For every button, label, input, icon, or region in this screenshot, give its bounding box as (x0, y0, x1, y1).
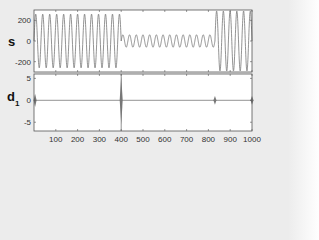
x-tick-label: 1000 (243, 135, 261, 144)
top-y-tick-label: 200 (18, 16, 32, 25)
x-tick-label: 400 (115, 135, 129, 144)
x-tick-label: 900 (224, 135, 238, 144)
x-tick-label: 200 (71, 135, 85, 144)
x-tick-label: 600 (158, 135, 172, 144)
x-tick-label: 500 (136, 135, 150, 144)
bottom-y-tick-label: 5 (27, 74, 32, 83)
wavelet-decomposition-chart: 10020030040050060070080090010002000-2005… (0, 0, 269, 152)
top-y-axis-label: s (8, 34, 15, 49)
bottom-y-axis-label-subscript: 1 (15, 99, 20, 108)
x-tick-label: 700 (180, 135, 194, 144)
x-tick-label: 800 (202, 135, 216, 144)
top-y-tick-label: 0 (27, 37, 32, 46)
bottom-plot-area (34, 74, 252, 131)
bottom-y-axis-label: d (7, 89, 15, 104)
bottom-y-tick-label: -5 (24, 118, 32, 127)
bottom-y-tick-label: 0 (27, 96, 32, 105)
x-tick-label: 300 (93, 135, 107, 144)
top-y-tick-label: -200 (15, 58, 32, 67)
x-tick-label: 100 (49, 135, 63, 144)
